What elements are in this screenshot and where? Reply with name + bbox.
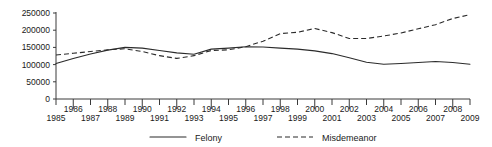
- x-tick-label: 2009: [461, 113, 480, 123]
- x-axis: 1985198619871988198919901991199219931994…: [47, 99, 480, 123]
- line-chart: 050000100000150000200000250000 198519861…: [0, 0, 492, 147]
- x-tick-label: 1997: [254, 113, 273, 123]
- x-tick-label: 1999: [288, 113, 307, 123]
- y-tick-label: 200000: [22, 25, 51, 35]
- x-tick-label: 2003: [357, 113, 376, 123]
- y-tick-label: 250000: [22, 8, 51, 18]
- y-axis: 050000100000150000200000250000: [22, 8, 56, 104]
- y-tick-label: 150000: [22, 42, 51, 52]
- x-tick-label: 2001: [323, 113, 342, 123]
- y-tick-label: 100000: [22, 60, 51, 70]
- x-tick-label: 1989: [116, 113, 135, 123]
- legend-label-misdemeanor: Misdemeanor: [322, 133, 377, 143]
- x-tick-label: 1993: [185, 113, 204, 123]
- x-tick-label: 1985: [47, 113, 66, 123]
- x-tick-label: 1991: [150, 113, 169, 123]
- chart-legend: FelonyMisdemeanor: [150, 133, 377, 143]
- series-line-misdemeanor: [56, 15, 470, 59]
- chart-canvas: 050000100000150000200000250000 198519861…: [0, 0, 492, 147]
- y-tick-label: 0: [45, 94, 50, 104]
- y-tick-label: 50000: [26, 77, 50, 87]
- series-line-felony: [56, 47, 470, 65]
- x-tick-label: 1995: [219, 113, 238, 123]
- legend-label-felony: Felony: [195, 133, 223, 143]
- x-tick-label: 1987: [81, 113, 100, 123]
- x-tick-label: 2007: [426, 113, 445, 123]
- x-tick-label: 2005: [392, 113, 411, 123]
- data-series-group: [56, 15, 470, 65]
